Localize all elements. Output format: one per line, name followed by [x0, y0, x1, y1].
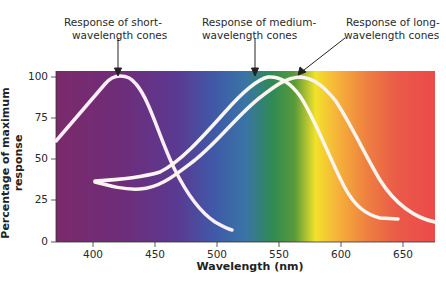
- ytick-25: 25: [26, 193, 48, 205]
- chart-canvas: [0, 0, 446, 288]
- xtick-500: 500: [202, 248, 232, 260]
- ytick-100: 100: [26, 70, 48, 82]
- medium-cone-label-line1: Response of medium-: [202, 16, 316, 29]
- long-cone-label-line2: wavelength cones: [344, 29, 440, 42]
- xtick-650: 650: [388, 248, 418, 260]
- y-axis-title: Percentage of maximum response: [0, 63, 25, 263]
- xtick-450: 450: [140, 248, 170, 260]
- long-cone-label: Response of long- wavelength cones: [344, 16, 440, 42]
- ytick-50: 50: [26, 152, 48, 164]
- x-axis-title: Wavelength (nm): [190, 260, 310, 273]
- long-cone-label-line1: Response of long-: [344, 16, 440, 29]
- short-cone-label: Response of short- wavelength cones: [64, 16, 167, 42]
- xtick-400: 400: [78, 248, 108, 260]
- annotation-arrows: [115, 38, 346, 76]
- short-cone-label-line1: Response of short-: [64, 16, 167, 29]
- y-ticks: [51, 77, 56, 242]
- short-cone-label-line2: wavelength cones: [64, 29, 167, 42]
- xtick-550: 550: [264, 248, 294, 260]
- xtick-600: 600: [326, 248, 356, 260]
- medium-cone-label-line2: wavelength cones: [202, 29, 316, 42]
- ytick-0: 0: [26, 235, 48, 247]
- x-ticks: [93, 242, 403, 247]
- medium-cone-label: Response of medium- wavelength cones: [202, 16, 316, 42]
- ytick-75: 75: [26, 111, 48, 123]
